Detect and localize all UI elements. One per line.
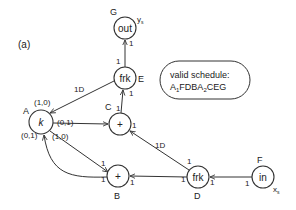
svg-text:frk: frk [192,172,204,183]
svg-text:(0,1): (0,1) [21,131,38,140]
edge-b-a [44,135,107,177]
svg-text:1: 1 [210,178,215,187]
svg-text:F: F [257,155,263,165]
svg-text:1: 1 [129,89,134,98]
node-g: out G ys [110,7,144,39]
node-d: frk D [187,166,209,201]
svg-text:1: 1 [116,104,121,113]
svg-text:in: in [259,172,267,183]
svg-text:1: 1 [129,39,134,48]
note-xs: xs [273,185,280,195]
svg-text:1: 1 [116,57,121,66]
svg-text:1: 1 [130,178,135,187]
schedule-box: valid schedule: A1FDBA2CEG [160,61,250,99]
svg-text:out: out [118,23,132,34]
svg-text:D: D [194,191,201,201]
svg-text:C: C [105,102,112,112]
svg-text:1: 1 [101,175,106,184]
svg-text:1: 1 [101,159,106,168]
node-a: k A [23,106,53,134]
svg-text:A: A [23,106,29,116]
edge-d-b [130,176,187,177]
svg-text:1D: 1D [155,141,165,150]
schedule-title: valid schedule: [170,70,230,80]
sdf-graph-diagram: (a) valid schedule: A1FDBA2CEG out G ys [0,0,296,210]
node-b: + B [107,165,129,201]
svg-text:+: + [115,171,121,182]
schedule-sequence: A1FDBA2CEG [170,82,226,93]
svg-text:(1,0): (1,0) [34,98,51,107]
svg-text:1: 1 [132,121,137,130]
svg-text:(1,0): (1,0) [52,132,69,141]
svg-text:+: + [117,119,123,130]
svg-text:E: E [138,74,144,84]
svg-text:1: 1 [181,175,186,184]
svg-text:1D: 1D [74,85,84,94]
node-e: frk E [114,67,144,89]
svg-text:G: G [110,7,117,17]
edge-c-e [121,90,123,113]
svg-text:1: 1 [187,157,192,166]
svg-text:(0,1): (0,1) [57,118,74,127]
svg-text:frk: frk [119,73,131,84]
node-f: in F xs [252,155,280,195]
panel-label: (a) [18,39,30,50]
note-ys: ys [137,15,144,25]
svg-text:B: B [114,191,120,201]
svg-text:1: 1 [245,179,250,188]
edge-d-c [130,131,189,170]
